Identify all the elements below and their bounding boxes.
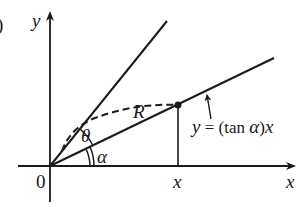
origin-label: 0 [36, 171, 46, 192]
line-tan-alpha [50, 58, 274, 166]
x-axis-label: x [285, 171, 295, 192]
radius-label: R [132, 101, 145, 122]
alpha-label: α [97, 146, 108, 167]
eq-x: x [264, 116, 274, 137]
alpha-arc-inner [86, 149, 90, 166]
rotation-diagram: ) y x 0 θ α R x y = (tan α)x [0, 0, 301, 207]
eq-open: (tan [219, 118, 250, 137]
theta-label: θ [81, 125, 90, 146]
y-axis-label: y [30, 10, 41, 31]
equation-pointer [207, 95, 211, 119]
rotated-line [50, 21, 167, 166]
eq-y: y [190, 116, 201, 137]
point-x-label: x [172, 171, 182, 192]
line-equation: y = (tan α)x [190, 116, 274, 137]
part-marker: ) [0, 14, 3, 36]
eq-equals: = [200, 118, 218, 137]
